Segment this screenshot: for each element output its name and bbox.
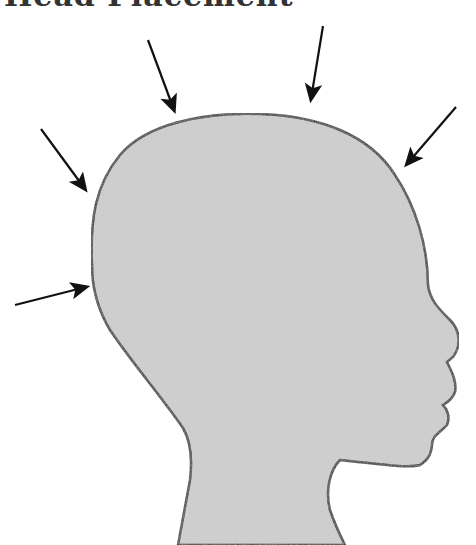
arrow-top-icon xyxy=(311,26,323,99)
arrow-upper-left-icon xyxy=(41,129,85,189)
arrow-right-icon xyxy=(407,107,456,164)
arrow-top-left-icon xyxy=(148,40,174,110)
head-placement-diagram xyxy=(0,0,476,545)
arrow-left-icon xyxy=(15,287,86,305)
head-silhouette xyxy=(92,114,459,545)
